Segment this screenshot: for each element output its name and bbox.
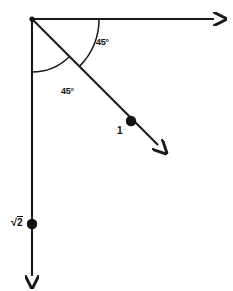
lower-angle-arc — [32, 56, 69, 72]
upper-angle-label: 45° — [96, 38, 109, 47]
vertical-magnitude-label: √2 — [11, 217, 23, 228]
diagonal-magnitude-point — [126, 116, 136, 126]
geometry-canvas — [0, 0, 233, 291]
vertical-magnitude-point — [27, 219, 37, 229]
diagonal-ray — [32, 19, 158, 145]
vector-diagram: 45° 45° 1 √2 — [0, 0, 233, 291]
lower-angle-label: 45° — [61, 87, 74, 96]
radicand-value: 2 — [17, 216, 24, 228]
diagonal-magnitude-label: 1 — [117, 126, 123, 136]
origin-point — [29, 16, 34, 21]
radical-group: √2 — [11, 217, 23, 228]
